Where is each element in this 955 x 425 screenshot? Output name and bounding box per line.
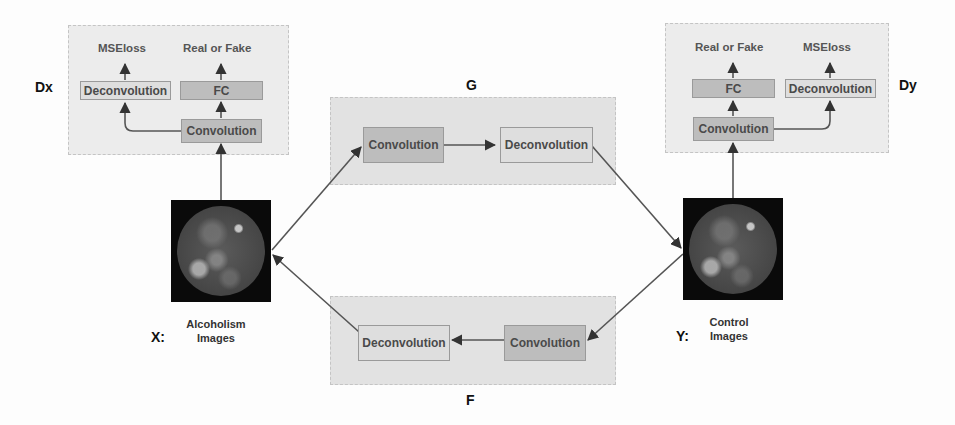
dx-convolution-node: Convolution [181, 119, 262, 143]
dx-label: Dx [35, 79, 53, 95]
dx-mseloss-output: MSEloss [98, 42, 146, 54]
f-deconvolution-node: Deconvolution [358, 325, 450, 361]
y-domain-prefix: Y: [676, 328, 689, 344]
x-domain-caption: Alcoholism Images [176, 317, 256, 345]
x-caption-line2: Images [176, 331, 256, 345]
x-caption-line1: Alcoholism [176, 317, 256, 331]
y-domain-caption: Control Images [694, 315, 764, 343]
connection-arrows [0, 0, 955, 425]
dy-deconvolution-node: Deconvolution [785, 79, 876, 98]
y-caption-line1: Control [694, 315, 764, 329]
g-label: G [466, 77, 477, 93]
g-deconvolution-node: Deconvolution [500, 127, 593, 163]
dx-deconvolution-node: Deconvolution [80, 81, 171, 100]
dy-real-or-fake-output: Real or Fake [695, 41, 763, 53]
dx-fc-node: FC [180, 81, 263, 100]
dy-mseloss-output: MSEloss [803, 41, 851, 53]
y-caption-line2: Images [694, 329, 764, 343]
g-convolution-node: Convolution [363, 127, 444, 163]
dy-label: Dy [899, 77, 917, 93]
control-brain-image [683, 198, 783, 300]
dy-convolution-node: Convolution [693, 117, 774, 141]
x-domain-prefix: X: [151, 329, 165, 345]
alcoholism-brain-image [171, 200, 271, 302]
f-convolution-node: Convolution [504, 325, 586, 361]
f-label: F [466, 392, 475, 408]
dy-fc-node: FC [692, 79, 775, 98]
dx-real-or-fake-output: Real or Fake [183, 42, 251, 54]
